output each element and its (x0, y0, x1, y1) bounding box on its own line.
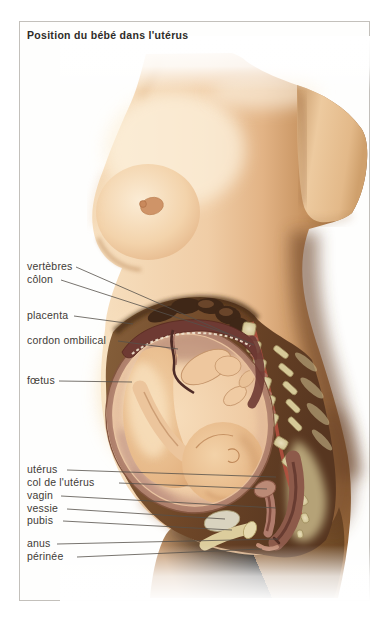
figure-title: Position du bébé dans l'utérus (27, 29, 188, 41)
label-vessie: vessie (27, 503, 58, 514)
top-fade (60, 36, 372, 91)
label-anus: anus (27, 538, 51, 549)
label-vertebres: vertèbres (27, 261, 73, 272)
label-vagin: vagin (27, 490, 53, 501)
label-col-de-luterus: col de l'utérus (27, 477, 94, 488)
label-cordon-ombilical: cordon ombilical (27, 335, 106, 346)
bottom-fade (60, 545, 372, 602)
label-uterus: utérus (27, 464, 57, 475)
fetus-knee (215, 356, 241, 376)
label-placenta: placenta (27, 310, 68, 321)
label-colon: côlon (27, 274, 53, 285)
page: Position du bébé dans l'utérus vertèbres… (0, 0, 390, 622)
label-foetus: fœtus (27, 375, 55, 386)
label-pubis: pubis (27, 515, 53, 526)
arm (297, 85, 367, 222)
label-perinee: périnée (27, 551, 63, 562)
